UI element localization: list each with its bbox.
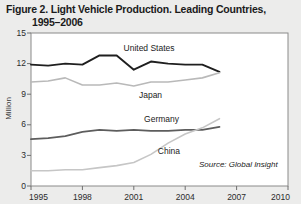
x-tick-label-2007: 2007: [222, 192, 252, 202]
y-tick-label-0: 0: [6, 181, 26, 191]
x-tick-label-2010: 2010: [260, 192, 290, 202]
y-tick-label-6: 6: [6, 119, 26, 129]
y-tick-label-12: 12: [6, 58, 26, 68]
source-note: Source: Global Insight: [199, 160, 278, 169]
y-tick-label-3: 3: [6, 150, 26, 160]
x-tick-label-2001: 2001: [119, 192, 149, 202]
x-axis-ticks: [31, 186, 288, 190]
series-label-japan: Japan: [139, 90, 162, 100]
series-label-china: China: [158, 146, 180, 156]
y-tick-label-15: 15: [6, 28, 26, 38]
x-tick-label-1995: 1995: [29, 192, 59, 202]
x-tick-label-2004: 2004: [170, 192, 200, 202]
series-label-united-states: United States: [124, 43, 175, 53]
line-chart: [0, 0, 301, 204]
series-label-germany: Germany: [144, 114, 179, 124]
y-tick-label-9: 9: [6, 89, 26, 99]
y-axis-ticks: [27, 33, 31, 186]
chart-plot-area: [0, 0, 301, 204]
x-tick-label-1998: 1998: [67, 192, 97, 202]
figure-container: Figure 2. Light Vehicle Production. Lead…: [0, 0, 301, 204]
